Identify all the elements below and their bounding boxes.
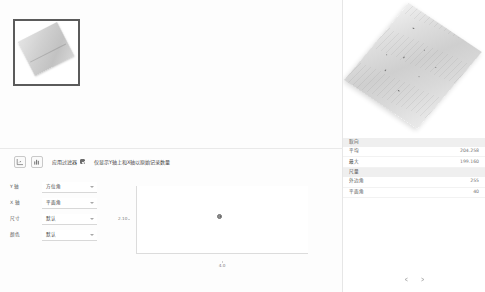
checkbox-show-axis-records[interactable]: 仅显示Y轴上和X轴以原始记录数量	[94, 158, 170, 165]
axis-controls: Y 轴 方位角 X 轴 平面角 尺寸 默认	[10, 182, 97, 241]
table-row: 最大 199.160	[343, 157, 485, 168]
control-row-y-axis: Y 轴 方位角	[10, 182, 97, 193]
stat-value: 199.160	[460, 160, 479, 165]
x-axis-tick: 4.0	[136, 261, 308, 268]
y-axis-tick-label: 2.10	[118, 217, 127, 221]
label-y-axis: Y 轴	[10, 185, 36, 190]
stat-key: 平面角	[349, 190, 364, 195]
stat-value: 255	[470, 179, 479, 184]
stat-key: 外边角	[349, 179, 364, 184]
select-size[interactable]: 默认	[42, 214, 97, 225]
stats-section-header-orientation: 取向	[343, 138, 485, 147]
checkbox-apply-filter-box[interactable]	[80, 159, 85, 164]
prev-icon[interactable]	[403, 277, 410, 282]
checkbox-apply-filter-label: 应用过滤器	[52, 158, 77, 165]
select-size-value: 默认	[46, 217, 56, 222]
3d-specimen-view[interactable]	[343, 0, 485, 135]
stats-section-header-dimension: 尺量	[343, 168, 485, 177]
label-size: 尺寸	[10, 217, 36, 222]
content-divider	[0, 148, 343, 149]
label-color: 颜色	[10, 233, 36, 238]
y-axis-tick: 2.10	[118, 217, 130, 221]
select-x-axis[interactable]: 平面角	[42, 198, 97, 209]
stat-key: 平均	[349, 149, 359, 154]
y-axis-tick-mark	[128, 219, 130, 220]
select-y-axis[interactable]: 方位角	[42, 182, 97, 193]
select-x-axis-value: 平面角	[46, 201, 61, 206]
select-color[interactable]: 默认	[42, 230, 97, 241]
stat-value: 40	[473, 190, 479, 195]
app-root: 应用过滤器 仅显示Y轴上和X轴以原始记录数量 Y 轴 方位角 X 轴 平面角	[0, 0, 485, 292]
stat-key: 最大	[349, 160, 359, 165]
label-x-axis: X 轴	[10, 201, 36, 206]
stat-value: 204.258	[460, 149, 479, 154]
chevron-down-icon	[90, 186, 94, 188]
scatter-data-point[interactable]	[217, 214, 222, 219]
thumbnail-slab-image	[18, 22, 74, 76]
scatter-plot[interactable]: 2.10 4.0	[118, 186, 308, 268]
select-y-axis-value: 方位角	[46, 185, 61, 190]
plot-frame	[136, 186, 308, 254]
table-row: 外边角 255	[343, 177, 485, 188]
panel-navigation	[343, 277, 485, 282]
right-panel: 取向 平均 204.258 最大 199.160 尺量 外边角 255 平面角 …	[343, 0, 485, 292]
histogram-icon[interactable]	[31, 156, 43, 168]
table-row: 平均 204.258	[343, 147, 485, 158]
chevron-down-icon	[90, 234, 94, 236]
chart-axes-icon[interactable]	[14, 156, 26, 168]
specimen-thumbnail[interactable]	[13, 19, 80, 86]
specimen-slab-render	[344, 3, 482, 129]
control-row-color: 颜色 默认	[10, 230, 97, 241]
table-row: 平面角 40	[343, 188, 485, 199]
control-row-size: 尺寸 默认	[10, 214, 97, 225]
checkbox-apply-filter[interactable]: 应用过滤器	[52, 158, 85, 165]
next-icon[interactable]	[419, 277, 426, 282]
chart-toolbar: 应用过滤器 仅显示Y轴上和X轴以原始记录数量	[14, 155, 170, 168]
main-content-area: 应用过滤器 仅显示Y轴上和X轴以原始记录数量 Y 轴 方位角 X 轴 平面角	[0, 0, 343, 292]
checkbox-show-axis-records-label: 仅显示Y轴上和X轴以原始记录数量	[94, 158, 170, 165]
select-color-value: 默认	[46, 233, 56, 238]
chevron-down-icon	[90, 202, 94, 204]
x-axis-tick-label: 4.0	[219, 264, 226, 268]
control-row-x-axis: X 轴 平面角	[10, 198, 97, 209]
chevron-down-icon	[90, 218, 94, 220]
statistics-table: 取向 平均 204.258 最大 199.160 尺量 外边角 255 平面角 …	[343, 138, 485, 198]
slab-grain-texture	[344, 3, 482, 129]
